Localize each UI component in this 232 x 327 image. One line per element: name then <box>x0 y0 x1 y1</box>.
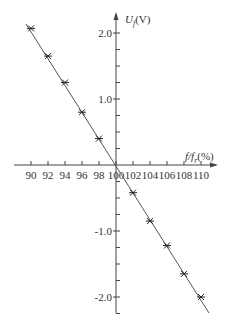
data-point-marker <box>163 243 171 249</box>
x-tick-label: 98 <box>94 169 106 181</box>
x-tick-label: 110 <box>193 169 210 181</box>
x-axis-arrow-icon <box>210 163 218 168</box>
x-tick-label: 108 <box>176 169 193 181</box>
data-point-marker <box>78 109 86 115</box>
x-tick-label: 102 <box>125 169 142 181</box>
y-axis-label: Uf(V) <box>125 13 151 28</box>
x-tick-label: 96 <box>77 169 89 181</box>
data-point-marker <box>95 136 103 142</box>
data-point-marker <box>197 294 205 300</box>
data-point-marker <box>61 80 69 86</box>
x-tick-label: 90 <box>26 169 38 181</box>
data-point-marker <box>129 190 137 196</box>
x-axis-label: f/fr(%) <box>185 150 214 165</box>
y-tick-label: 2.0 <box>98 27 112 39</box>
x-tick-label: 106 <box>159 169 176 181</box>
data-point-marker <box>180 271 188 277</box>
x-tick-label: 104 <box>142 169 159 181</box>
y-tick-label: -2.0 <box>95 291 113 303</box>
y-tick-label: 1.0 <box>98 93 112 105</box>
y-axis-arrow-icon <box>114 12 119 20</box>
x-tick-label: 94 <box>60 169 72 181</box>
y-tick-label: -1.0 <box>95 225 113 237</box>
chart-figure: 90929496981001021041061081102.01.0-1.0-2… <box>0 0 232 327</box>
x-tick-label: 92 <box>43 169 54 181</box>
data-point-marker <box>27 25 35 31</box>
